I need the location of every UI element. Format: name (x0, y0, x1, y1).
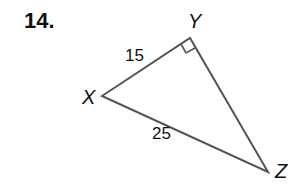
vertex-label-y: Y (188, 11, 201, 31)
vertex-label-x: X (82, 87, 95, 107)
side-label-xy: 15 (125, 47, 144, 64)
vertex-label-z: Z (275, 161, 287, 181)
right-angle-marker (181, 44, 195, 53)
triangle-diagram (0, 0, 303, 191)
side-label-xz: 25 (152, 125, 171, 142)
